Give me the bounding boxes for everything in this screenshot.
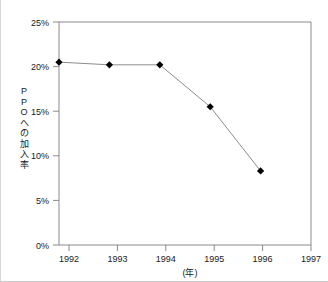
series-line-ppo-enrollment (59, 62, 261, 171)
plot-axes (59, 22, 311, 245)
x-tick-label: 1993 (107, 254, 127, 264)
line-chart-plot: 0% 5% 10% 15% 20% 25% 1992 1993 1994 199… (1, 0, 328, 282)
data-point-marker (55, 59, 62, 66)
y-tick-label: 0% (36, 241, 49, 251)
x-axis-title: (年) (183, 267, 198, 278)
x-tick-label: 1995 (204, 254, 224, 264)
y-axis-ticks (53, 22, 59, 245)
x-tick-label: 1994 (156, 254, 176, 264)
y-tick-label: 25% (31, 18, 49, 28)
x-axis-tick-labels: 1992 1993 1994 1995 1996 1997 (59, 254, 321, 264)
y-axis-tick-labels: 0% 5% 10% 15% 20% 25% (31, 18, 49, 251)
x-tick-label: 1996 (253, 254, 273, 264)
y-tick-label: 10% (31, 151, 49, 161)
series-markers-ppo-enrollment (55, 59, 264, 175)
x-tick-label: 1997 (301, 254, 321, 264)
y-tick-label: 5% (36, 196, 49, 206)
data-point-marker (106, 61, 113, 68)
x-axis-ticks (69, 245, 311, 251)
y-tick-label: 20% (31, 62, 49, 72)
chart-figure: P P O へ の 加 入 率 0% 5% 10% 15% (0, 0, 328, 282)
x-tick-label: 1992 (59, 254, 79, 264)
y-tick-label: 15% (31, 107, 49, 117)
